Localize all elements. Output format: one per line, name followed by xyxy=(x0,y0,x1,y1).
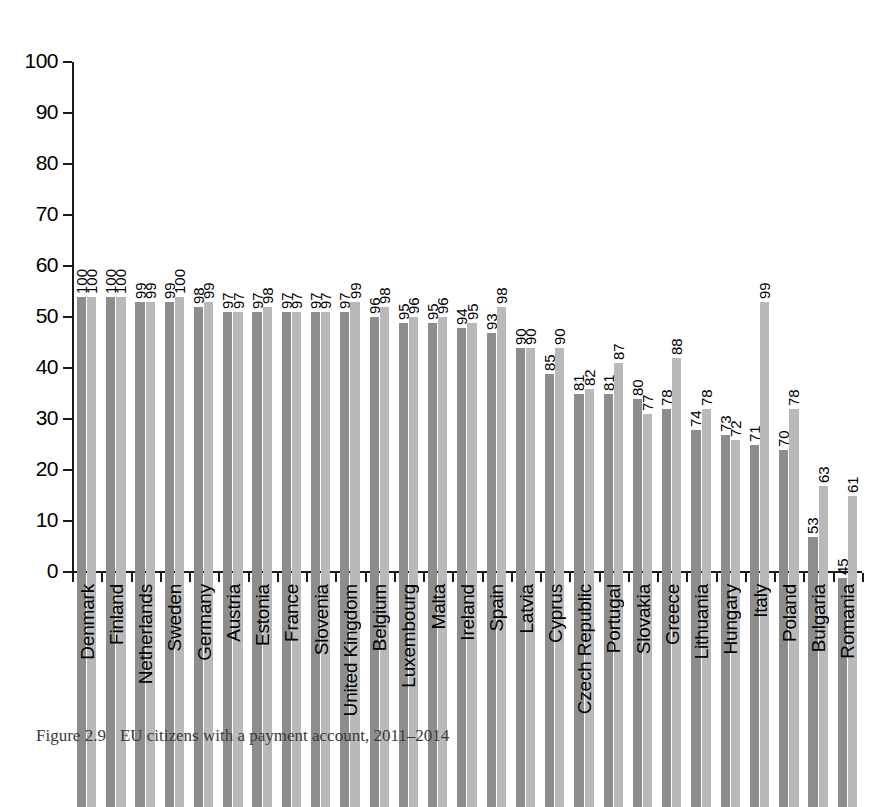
bar-group: 9797 xyxy=(277,62,306,807)
bar-value-label: 99 xyxy=(348,269,363,299)
bar-group: 100100 xyxy=(101,62,130,807)
x-axis-tick-mark xyxy=(862,573,864,582)
bar-value-label: 99 xyxy=(201,269,216,299)
x-axis-category-label: Luxembourg xyxy=(399,584,418,688)
bar-value-label: 96 xyxy=(435,284,450,314)
y-axis-tick-label: 40 xyxy=(36,356,58,378)
bar xyxy=(457,328,466,807)
bar-value-label: 100 xyxy=(84,264,99,294)
bar-value-label: 82 xyxy=(582,356,597,386)
y-axis-tick-mark xyxy=(63,61,72,63)
x-axis-category-label: Sweden xyxy=(165,584,184,651)
bar xyxy=(555,348,564,807)
bar-group: 7888 xyxy=(657,62,686,807)
bar-value-label: 99 xyxy=(143,269,158,299)
y-axis-tick-mark xyxy=(63,214,72,216)
bar-value-label: 98 xyxy=(377,274,392,304)
y-axis-tick-label: 30 xyxy=(36,407,58,429)
bar-group: 9798 xyxy=(248,62,277,807)
bar-value-label: 95 xyxy=(465,290,480,320)
bar-group: 5363 xyxy=(803,62,832,807)
bar-group: 8187 xyxy=(599,62,628,807)
y-axis-tick-label: 20 xyxy=(36,458,58,480)
bar-value-label: 97 xyxy=(289,279,304,309)
x-axis-category-label: Hungary xyxy=(721,584,740,654)
bar-value-label: 77 xyxy=(640,381,655,411)
bar-value-label: 100 xyxy=(172,264,187,294)
y-axis-tick-label: 0 xyxy=(47,560,58,582)
x-axis-category-label: Slovenia xyxy=(312,584,331,655)
x-axis-category-label: Italy xyxy=(751,584,770,618)
caption-figure-number: Figure 2.9 xyxy=(36,726,106,745)
x-axis-category-label: Romania xyxy=(838,584,857,659)
y-axis-tick-mark xyxy=(63,316,72,318)
y-axis-tick-mark xyxy=(63,112,72,114)
x-axis-category-label: Austria xyxy=(224,584,243,642)
y-axis-tick-mark xyxy=(63,367,72,369)
x-axis-category-label: Latvia xyxy=(517,584,536,634)
bar-value-label: 88 xyxy=(669,325,684,355)
bar-group: 9596 xyxy=(394,62,423,807)
bar xyxy=(487,333,496,807)
bar xyxy=(750,445,759,807)
y-axis-tick-mark xyxy=(63,418,72,420)
x-axis-category-label: United Kingdom xyxy=(341,584,360,716)
bar-value-label: 96 xyxy=(406,284,421,314)
bar xyxy=(516,348,525,807)
caption-text: EU citizens with a payment account, 2011… xyxy=(120,726,449,745)
y-axis-tick-mark xyxy=(63,163,72,165)
bar-value-label: 78 xyxy=(699,376,714,406)
bar-value-label: 87 xyxy=(611,330,626,360)
y-axis-tick-mark xyxy=(63,469,72,471)
bar-group: 8077 xyxy=(628,62,657,807)
x-axis-category-label: Estonia xyxy=(253,584,272,646)
bar-group: 99100 xyxy=(160,62,189,807)
x-axis-category-label: Belgium xyxy=(370,584,389,651)
y-axis-tick-label: 70 xyxy=(36,203,58,225)
bar-value-label: 97 xyxy=(231,279,246,309)
x-axis-category-label: Slovakia xyxy=(634,584,653,654)
bar-group: 7478 xyxy=(686,62,715,807)
y-axis-tick-mark xyxy=(63,265,72,267)
y-axis-tick-label: 90 xyxy=(36,101,58,123)
y-axis-tick-label: 60 xyxy=(36,254,58,276)
y-axis-tick-label: 80 xyxy=(36,152,58,174)
x-axis-category-label: France xyxy=(282,584,301,642)
bar-group: 8590 xyxy=(540,62,569,807)
bar-group: 9596 xyxy=(423,62,452,807)
x-axis-category-label: Czech Republic xyxy=(575,584,594,714)
bar-value-label: 90 xyxy=(523,315,538,345)
bar xyxy=(526,348,535,807)
bar-value-label: 98 xyxy=(260,274,275,304)
y-axis-tick-mark xyxy=(63,571,72,573)
bar-value-label: 100 xyxy=(113,264,128,294)
bar-group: 9899 xyxy=(189,62,218,807)
x-axis-category-label: Bulgaria xyxy=(809,584,828,652)
bar-group: 7199 xyxy=(745,62,774,807)
bar xyxy=(672,358,681,807)
bar-group: 9797 xyxy=(218,62,247,807)
x-axis-category-label: Cyprus xyxy=(546,584,565,643)
bar-value-label: 98 xyxy=(494,274,509,304)
bar xyxy=(808,537,817,807)
bar xyxy=(760,302,769,807)
x-axis-category-label: Finland xyxy=(107,584,126,645)
bar xyxy=(467,323,476,807)
bar-value-label: 78 xyxy=(786,376,801,406)
bar-group: 7372 xyxy=(716,62,745,807)
bar-value-label: 61 xyxy=(845,463,860,493)
x-axis-category-label: Malta xyxy=(429,584,448,629)
bar-group: 100100 xyxy=(72,62,101,807)
bar-group: 9090 xyxy=(511,62,540,807)
figure-caption: Figure 2.9EU citizens with a payment acc… xyxy=(36,726,449,746)
y-axis-tick-label: 100 xyxy=(24,50,58,72)
bar-group: 7078 xyxy=(774,62,803,807)
bar-value-label: 63 xyxy=(816,453,831,483)
x-axis-category-label: Denmark xyxy=(78,584,97,660)
bar-value-label: 99 xyxy=(757,269,772,299)
bar-value-label: 90 xyxy=(552,315,567,345)
bar-group: 4561 xyxy=(833,62,862,807)
y-axis-tick-label: 10 xyxy=(36,509,58,531)
x-axis-category-label: Lithuania xyxy=(692,584,711,659)
